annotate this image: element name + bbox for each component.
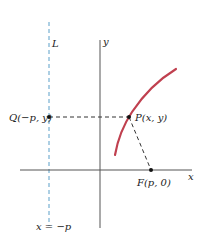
label-point-q: Q(−p, y): [9, 112, 52, 123]
label-point-p: P(x, y): [134, 112, 167, 123]
label-directrix-equation: x = −p: [36, 221, 72, 232]
label-y-axis: y: [102, 36, 109, 47]
point-p: [127, 115, 131, 119]
label-x-axis: x: [188, 171, 194, 182]
segment-pf: [129, 117, 151, 170]
point-f: [149, 168, 153, 172]
label-point-f: F(p, 0): [136, 177, 171, 188]
label-directrix: L: [51, 38, 59, 49]
parabola-diagram: L y x Q(−p, y) P(x, y) F(p, 0) x = −p: [0, 0, 208, 243]
